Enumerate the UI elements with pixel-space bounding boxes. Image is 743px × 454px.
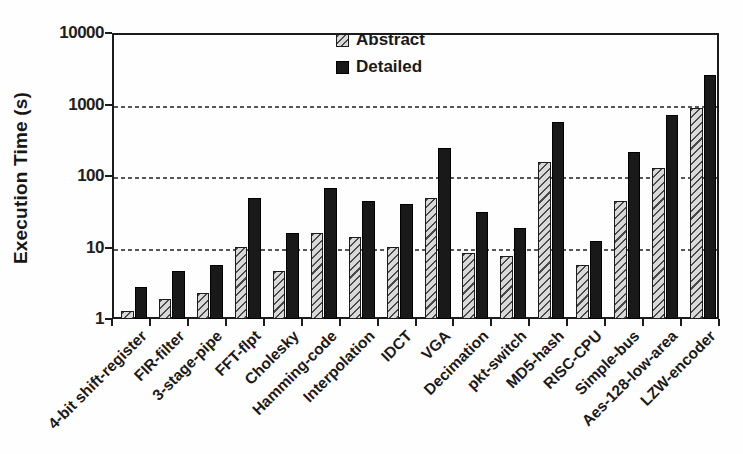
- category-label-4-bit-shift-register: 4-bit shift-register: [45, 327, 151, 433]
- bar-abstract-hamming-code: [311, 233, 324, 319]
- bar-detailed-aes-128-low-area: [666, 115, 679, 319]
- y-tick-mark: [105, 104, 112, 106]
- x-tick-mark: [301, 319, 303, 326]
- bar-detailed-idct: [400, 204, 413, 319]
- bar-detailed-risc-cpu: [590, 241, 603, 319]
- gridline-100: [114, 177, 717, 179]
- bar-abstract-md5-hash: [538, 162, 551, 319]
- bar-abstract-cholesky: [273, 271, 286, 319]
- bar-detailed-vga: [438, 148, 451, 319]
- x-tick-mark: [452, 319, 454, 326]
- bar-abstract-interpolation: [349, 237, 362, 319]
- x-tick-mark: [528, 319, 530, 326]
- legend-label-abstract: Abstract: [356, 30, 425, 50]
- x-tick-mark: [225, 319, 227, 326]
- bar-detailed-4-bit-shift-register: [135, 287, 148, 319]
- bar-abstract-decimation: [462, 253, 475, 319]
- x-tick-mark: [490, 319, 492, 326]
- y-tick-mark: [105, 175, 112, 177]
- x-tick-mark: [187, 319, 189, 326]
- bar-abstract-vga: [425, 198, 438, 319]
- bar-detailed-interpolation: [362, 201, 375, 319]
- x-tick-mark: [111, 319, 113, 326]
- bar-detailed-simple-bus: [628, 152, 641, 319]
- bar-detailed-md5-hash: [552, 122, 565, 319]
- y-tick-label-1000: 1000: [0, 95, 104, 115]
- y-tick-label-100: 100: [0, 166, 104, 186]
- bar-abstract-lzw-encoder: [690, 108, 703, 319]
- bar-abstract-fir-filter: [159, 299, 172, 319]
- x-tick-mark: [680, 319, 682, 326]
- legend-item-abstract: Abstract: [336, 30, 425, 50]
- bar-detailed-fft-flpt: [248, 198, 261, 319]
- bar-detailed-pkt-switch: [514, 228, 527, 319]
- bar-abstract-risc-cpu: [576, 265, 589, 319]
- y-tick-label-1: 1: [0, 309, 104, 329]
- chart-figure: Execution Time (s) Abstract Detailed 4-b…: [0, 0, 743, 454]
- detailed-solid-swatch-icon: [336, 61, 349, 74]
- x-tick-mark: [263, 319, 265, 326]
- bar-abstract-simple-bus: [614, 201, 627, 319]
- abstract-hatched-swatch-icon: [336, 34, 349, 47]
- bar-abstract-idct: [387, 247, 400, 319]
- category-label-idct: IDCT: [378, 327, 416, 365]
- bar-abstract-3-stage-pipe: [197, 293, 210, 319]
- legend-item-detailed: Detailed: [336, 57, 425, 77]
- bar-abstract-4-bit-shift-register: [121, 311, 134, 319]
- bar-abstract-fft-flpt: [235, 247, 248, 319]
- y-tick-label-10: 10: [0, 238, 104, 258]
- legend-label-detailed: Detailed: [356, 57, 422, 77]
- bar-detailed-decimation: [476, 212, 489, 319]
- x-tick-mark: [377, 319, 379, 326]
- bar-detailed-fir-filter: [172, 271, 185, 319]
- x-tick-mark: [604, 319, 606, 326]
- y-tick-mark: [105, 32, 112, 34]
- x-tick-mark: [718, 319, 720, 326]
- x-tick-mark: [149, 319, 151, 326]
- x-tick-mark: [339, 319, 341, 326]
- legend: Abstract Detailed: [336, 30, 425, 77]
- y-tick-label-10000: 10000: [0, 23, 104, 43]
- bar-detailed-cholesky: [286, 233, 299, 319]
- x-tick-mark: [415, 319, 417, 326]
- x-tick-mark: [642, 319, 644, 326]
- bar-abstract-aes-128-low-area: [652, 168, 665, 319]
- bar-detailed-lzw-encoder: [704, 75, 717, 319]
- gridline-1000: [114, 106, 717, 108]
- x-tick-mark: [566, 319, 568, 326]
- bar-abstract-pkt-switch: [500, 256, 513, 319]
- bar-detailed-3-stage-pipe: [210, 265, 223, 319]
- y-tick-mark: [105, 247, 112, 249]
- bar-detailed-hamming-code: [324, 188, 337, 319]
